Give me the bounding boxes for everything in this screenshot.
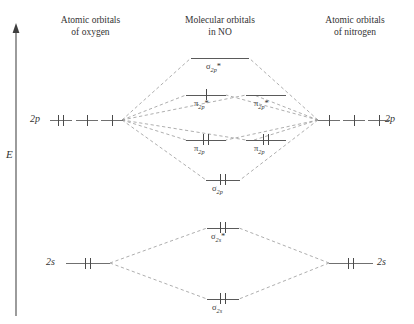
mo-sigma2p-level xyxy=(206,180,240,181)
electron xyxy=(268,134,269,145)
electron xyxy=(348,258,349,269)
electron xyxy=(90,258,91,269)
mo-sigma2p-star-label: σ2p* xyxy=(206,61,221,73)
electron xyxy=(87,115,88,126)
mo-sigma2s-level xyxy=(207,299,239,300)
mo-diagram: Atomic orbitals of oxygen Molecular orbi… xyxy=(0,0,414,324)
nitrogen-2p-label: 2p xyxy=(385,113,395,124)
oxygen-2s-label: 2s xyxy=(46,256,55,267)
mo-sigma2p-label: σ2p xyxy=(212,183,223,195)
nitrogen-2s-level xyxy=(329,263,373,264)
nitrogen-2s-label: 2s xyxy=(377,256,386,267)
mo-pi2p-left-level xyxy=(186,140,226,141)
mo-sigma2s-label: σ2s xyxy=(212,302,222,314)
energy-axis-label: E xyxy=(6,148,13,160)
electron xyxy=(112,115,113,126)
electron xyxy=(63,115,64,126)
electron xyxy=(58,115,59,126)
heading-molecular: Molecular orbitals in NO xyxy=(160,14,280,38)
oxygen-2p-label: 2p xyxy=(30,113,40,124)
mo-pi2p-star-right-level xyxy=(246,95,286,96)
mo-pi2p-star-right-label: π2p* xyxy=(254,98,269,110)
heading-nitrogen: Atomic orbitals of nitrogen xyxy=(300,14,410,38)
oxygen-2p-level-1 xyxy=(50,120,72,121)
mo-sigma2s-star-label: σ2s* xyxy=(211,231,225,243)
heading-oxygen: Atomic orbitals of oxygen xyxy=(33,14,148,38)
energy-axis-arrow xyxy=(0,0,414,324)
electron xyxy=(353,258,354,269)
mo-pi2p-right-level xyxy=(246,140,286,141)
correlation-lines xyxy=(0,0,414,324)
electron xyxy=(379,115,380,126)
mo-sigma2p-star-level xyxy=(191,58,249,59)
electron xyxy=(225,293,226,304)
oxygen-2s-level xyxy=(66,263,110,264)
electron xyxy=(329,115,330,126)
mo-pi2p-star-left-label: π2p* xyxy=(194,98,209,110)
electron xyxy=(85,258,86,269)
mo-pi2p-left-label: π2p xyxy=(194,143,204,155)
electron xyxy=(208,134,209,145)
electron xyxy=(225,174,226,185)
electron xyxy=(354,115,355,126)
mo-sigma2s-star-level xyxy=(207,228,239,229)
mo-pi2p-right-label: π2p xyxy=(254,143,264,155)
